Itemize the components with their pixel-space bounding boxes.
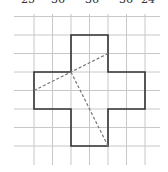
cross-grid-diagram — [0, 0, 168, 172]
